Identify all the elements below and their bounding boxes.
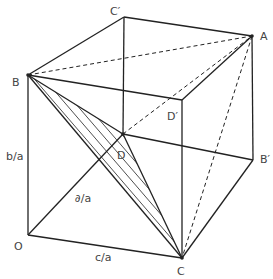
- label-edge-od: ∂/a: [75, 192, 91, 205]
- label-a: A: [260, 30, 268, 43]
- vertex-b-dot: [26, 73, 30, 77]
- label-d-prime: D′: [167, 110, 178, 123]
- label-c-prime: C′: [110, 5, 121, 18]
- label-c: C: [177, 265, 185, 278]
- vertex-d-dot: [121, 132, 125, 136]
- label-o: O: [14, 240, 23, 253]
- vertex-a-dot: [250, 34, 254, 38]
- vertex-c-dot: [180, 256, 184, 260]
- solid-edges: [28, 17, 253, 258]
- label-d: D: [117, 149, 125, 162]
- dashed-edges: [28, 36, 252, 258]
- label-edge-ob: b/a: [6, 150, 23, 163]
- hatched-triangle: [8, 60, 270, 260]
- label-b-prime: B′: [260, 153, 271, 166]
- label-edge-oc: c/a: [95, 251, 112, 264]
- cube-diagram: C′ A B D′ D B′ O C b/a ∂/a c/a: [0, 0, 273, 279]
- label-b: B: [12, 76, 20, 89]
